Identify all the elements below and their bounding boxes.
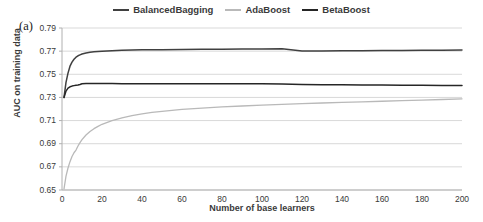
y-axis-title: AUC on training data xyxy=(12,18,22,128)
y-tick-label: 0.75 xyxy=(26,70,56,79)
y-tick-label: 0.73 xyxy=(26,93,56,102)
y-tick-label: 0.79 xyxy=(26,24,56,33)
x-tick-label: 140 xyxy=(327,195,357,204)
y-tick-label: 0.71 xyxy=(26,116,56,125)
legend-line-icon xyxy=(113,9,129,11)
y-tick-label: 0.65 xyxy=(26,186,56,195)
chart-legend: BalancedBaggingAdaBoostBetaBoost xyxy=(0,5,483,15)
y-tick-label: 0.77 xyxy=(26,47,56,56)
x-tick-label: 100 xyxy=(247,195,277,204)
y-tick-label: 0.69 xyxy=(26,139,56,148)
legend-line-icon xyxy=(302,9,318,11)
line-chart-plot xyxy=(0,0,483,222)
x-axis-title: Number of base learners xyxy=(62,203,462,213)
legend-entry[interactable]: BalancedBagging xyxy=(113,5,213,15)
x-tick-label: 200 xyxy=(447,195,477,204)
x-tick-label: 60 xyxy=(167,195,197,204)
x-tick-label: 180 xyxy=(407,195,437,204)
legend-entry[interactable]: AdaBoost xyxy=(225,5,290,15)
legend-label: BalancedBagging xyxy=(133,5,213,15)
series-line-balancedbagging xyxy=(64,49,462,98)
x-tick-label: 0 xyxy=(47,195,77,204)
series-line-betaboost xyxy=(64,84,462,98)
x-tick-label: 120 xyxy=(287,195,317,204)
y-tick-label: 0.67 xyxy=(26,162,56,171)
legend-label: BetaBoost xyxy=(322,5,370,15)
figure-panel-a: (a) BalancedBaggingAdaBoostBetaBoost AUC… xyxy=(0,0,483,222)
legend-line-icon xyxy=(225,9,241,11)
x-tick-label: 160 xyxy=(367,195,397,204)
x-tick-label: 40 xyxy=(127,195,157,204)
legend-entry[interactable]: BetaBoost xyxy=(302,5,370,15)
x-tick-label: 20 xyxy=(87,195,117,204)
x-tick-label: 80 xyxy=(207,195,237,204)
legend-label: AdaBoost xyxy=(245,5,290,15)
